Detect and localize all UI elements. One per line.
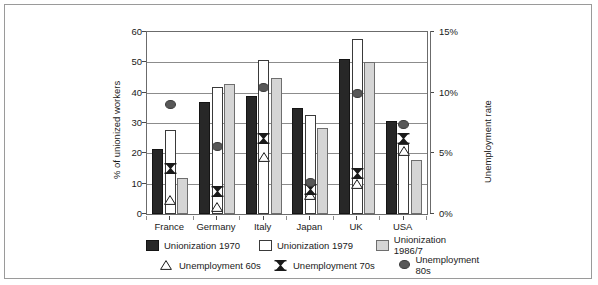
left-axis-tick: 50	[108, 57, 142, 66]
light-gray-square-icon	[376, 240, 389, 251]
open-triangle-marker-icon	[160, 260, 174, 271]
legend-item: Unionization 1970	[146, 235, 240, 255]
right-axis-title: Unemployment rate	[482, 100, 493, 183]
white-square-icon	[259, 240, 272, 251]
legend-row-2: Unemployment 60sUnemployment 70sUnemploy…	[146, 255, 476, 275]
right-axis-tick: 15%	[439, 27, 473, 36]
bar	[317, 128, 328, 214]
bar	[152, 149, 163, 214]
unemployment-80s-marker	[212, 142, 223, 151]
right-axis-tick: 0%	[439, 209, 473, 218]
right-tick-mark	[430, 213, 434, 214]
legend-label: Unionization 1970	[164, 240, 240, 251]
x-group-divider	[193, 216, 194, 220]
x-axis-label-uk: UK	[333, 221, 380, 232]
unemployment-80s-marker	[352, 89, 363, 98]
left-axis-tick: 60	[108, 27, 142, 36]
x-group-divider	[379, 216, 380, 220]
right-axis-tick: 10%	[439, 88, 473, 97]
right-axis-tick: 5%	[439, 148, 473, 157]
left-axis: 6050403020100	[104, 31, 142, 215]
unemployment-80s-marker	[165, 100, 176, 109]
unemployment-70s-marker	[257, 130, 270, 148]
x-tick-mark	[356, 216, 357, 220]
right-axis: 15%10%5%0%	[430, 31, 464, 215]
legend-label: Unionization 1986/7	[394, 234, 476, 256]
x-axis-label-germany: Germany	[193, 221, 240, 232]
filled-circle-marker-icon	[399, 260, 410, 271]
legend-label: Unionization 1979	[277, 240, 353, 251]
x-group-divider	[286, 216, 287, 220]
gridline	[147, 93, 427, 94]
x-tick-mark	[169, 216, 170, 220]
bar	[339, 59, 350, 214]
legend-label: Unemployment 60s	[179, 260, 261, 271]
legend-row-1: Unionization 1970Unionization 1979Unioni…	[146, 235, 476, 255]
legend-item: Unionization 1986/7	[376, 235, 476, 255]
x-tick-mark	[309, 216, 310, 220]
legend-label: Unemployment 80s	[415, 254, 482, 276]
legend-item: Unemployment 60s	[160, 255, 261, 275]
x-tick-mark	[263, 216, 264, 220]
legend-item: Unionization 1979	[259, 235, 353, 255]
bar	[177, 178, 188, 214]
x-axis: FranceGermanyItalyJapanUKUSA	[146, 216, 428, 234]
unemployment-70s-marker	[164, 160, 177, 178]
unemployment-60s-marker	[164, 191, 176, 209]
plot-area	[146, 31, 428, 215]
bar	[199, 102, 210, 214]
bar	[271, 78, 282, 214]
right-axis-line	[430, 31, 431, 213]
x-group-divider	[333, 216, 334, 220]
bar	[224, 84, 235, 214]
legend-label: Unemployment 70s	[293, 260, 375, 271]
bar	[364, 62, 375, 214]
unemployment-80s-marker	[398, 120, 409, 129]
legend-item: Unemployment 80s	[399, 255, 482, 275]
x-tick-mark	[216, 216, 217, 220]
left-axis-tick: 0	[108, 209, 142, 218]
x-group-divider	[426, 216, 427, 220]
x-axis-label-usa: USA	[379, 221, 426, 232]
x-axis-label-japan: Japan	[286, 221, 333, 232]
x-group-divider	[146, 216, 147, 220]
gridline	[147, 62, 427, 63]
unemployment-60s-marker	[258, 148, 270, 166]
x-axis-label-italy: Italy	[239, 221, 286, 232]
x-axis-label-france: France	[146, 221, 193, 232]
unemployment-70s-marker	[397, 130, 410, 148]
solid-dark-square-icon	[146, 240, 159, 251]
bar	[411, 160, 422, 214]
unemployment-80s-marker	[305, 178, 316, 187]
bar	[246, 96, 257, 214]
x-group-divider	[239, 216, 240, 220]
unemployment-70s-marker	[211, 183, 224, 201]
x-tick-mark	[403, 216, 404, 220]
left-axis-title: % of unionized workers	[111, 81, 122, 179]
bar	[386, 121, 397, 214]
legend-item: Unemployment 70s	[274, 255, 375, 275]
unemployment-70s-marker	[351, 165, 364, 183]
bowtie-marker-icon	[274, 260, 288, 271]
bar	[292, 108, 303, 214]
chart-frame: 6050403020100 % of unionized workers 15%…	[4, 4, 592, 279]
chart-legend: Unionization 1970Unionization 1979Unioni…	[146, 235, 476, 275]
left-axis-tick: 10	[108, 179, 142, 188]
unemployment-80s-marker	[258, 83, 269, 92]
